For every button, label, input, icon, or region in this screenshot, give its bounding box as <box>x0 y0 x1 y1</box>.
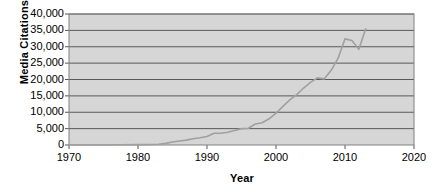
media-citations-line-chart: Media Citations Year 05,00010,00015,0002… <box>0 0 440 193</box>
y-tick-label: 40,000 <box>6 7 64 19</box>
x-tick-label: 2020 <box>384 151 440 163</box>
x-tick-label: 2000 <box>246 151 306 163</box>
y-tick-label: 20,000 <box>6 73 64 85</box>
y-tick-label: 5,000 <box>6 122 64 134</box>
x-tick-label: 2010 <box>315 151 375 163</box>
y-tick-label: 10,000 <box>6 105 64 117</box>
y-tick-label: 25,000 <box>6 56 64 68</box>
x-tick-label: 1980 <box>108 151 168 163</box>
y-tick-label: 0 <box>6 138 64 150</box>
y-tick-label: 30,000 <box>6 40 64 52</box>
x-tick-label: 1990 <box>177 151 237 163</box>
y-tick-label: 15,000 <box>6 89 64 101</box>
plot-area <box>0 0 440 193</box>
x-tick-label: 1970 <box>39 151 99 163</box>
y-tick-marks <box>65 14 69 145</box>
y-tick-label: 35,000 <box>6 23 64 35</box>
